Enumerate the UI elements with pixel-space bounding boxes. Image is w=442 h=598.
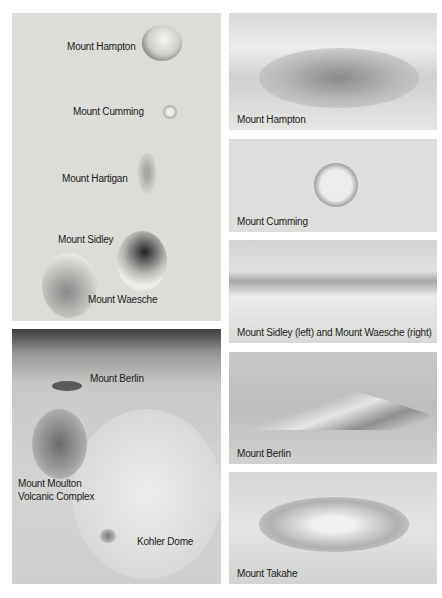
label-mount-hampton: Mount Hampton: [67, 41, 136, 52]
hampton-crater: [142, 25, 182, 61]
berlin-shape: [239, 390, 429, 430]
label-mount-sidley: Mount Sidley: [58, 234, 113, 245]
label-mount-berlin: Mount Berlin: [90, 373, 144, 384]
sidley-crater: [117, 231, 167, 291]
photo-mount-berlin: Mount Berlin: [229, 352, 437, 464]
caption-mount-takahe: Mount Takahe: [237, 568, 297, 579]
hampton-shape: [259, 48, 419, 108]
caption-mount-cumming: Mount Cumming: [237, 216, 308, 227]
label-kohler-dome: Kohler Dome: [137, 536, 193, 547]
satellite-map-panel: Mount Hampton Mount Cumming Mount Hartig…: [12, 13, 221, 321]
photo-mount-hampton: Mount Hampton: [229, 13, 437, 130]
photo-mount-cumming: Mount Cumming: [229, 139, 437, 232]
berlin-peak: [52, 381, 82, 391]
label-mount-hartigan: Mount Hartigan: [62, 173, 128, 184]
photo-mount-sidley-waesche: Mount Sidley (left) and Mount Waesche (r…: [229, 240, 437, 343]
caption-mount-sidley-waesche: Mount Sidley (left) and Mount Waesche (r…: [237, 327, 432, 338]
label-mount-moulton-line1: Mount Moulton: [18, 478, 82, 489]
label-mount-moulton-line2: Volcanic Complex: [18, 491, 94, 502]
hartigan-ridge: [138, 153, 156, 193]
label-mount-cumming: Mount Cumming: [73, 106, 144, 117]
photo-mount-takahe: Mount Takahe: [229, 472, 437, 584]
caption-mount-hampton: Mount Hampton: [237, 114, 306, 125]
takahe-shape: [259, 497, 409, 552]
waesche-crater: [42, 253, 97, 318]
label-mount-waesche: Mount Waesche: [88, 294, 157, 305]
moulton-complex: [32, 409, 87, 479]
aerial-view-panel: Mount Berlin Mount Moulton Volcanic Comp…: [12, 329, 221, 584]
snow-ridge: [72, 409, 221, 579]
cumming-crater: [163, 105, 177, 119]
cumming-shape: [314, 163, 358, 207]
caption-mount-berlin: Mount Berlin: [237, 448, 291, 459]
kohler-dome: [100, 529, 116, 543]
